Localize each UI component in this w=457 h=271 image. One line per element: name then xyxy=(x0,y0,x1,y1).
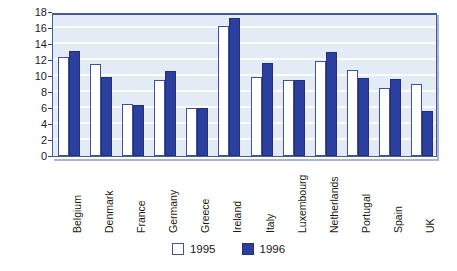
x-axis-label-denmark: Denmark xyxy=(104,190,115,233)
legend-item-1995: 1995 xyxy=(172,243,216,255)
bar-group xyxy=(117,15,149,156)
y-axis-tick-label: 0 xyxy=(27,151,47,162)
x-axis-label-portugal: Portugal xyxy=(361,194,372,233)
bar-1996 xyxy=(294,80,305,156)
y-axis-tick-label: 10 xyxy=(27,71,47,82)
bar-1995 xyxy=(90,64,101,156)
bar-group xyxy=(149,15,181,156)
y-axis-tick-label: 4 xyxy=(27,119,47,130)
bar-1995 xyxy=(347,70,358,156)
y-axis-tick-label: 6 xyxy=(27,103,47,114)
bar-1996 xyxy=(101,77,112,156)
legend-swatch-icon xyxy=(242,243,254,255)
x-axis-label-spain: Spain xyxy=(393,206,404,233)
bar-group xyxy=(310,15,342,156)
x-axis-category-labels: BelgiumDenmarkFranceGermanyGreeceIreland… xyxy=(52,161,437,236)
bar-group xyxy=(246,15,278,156)
x-axis-label-luxembourg: Luxembourg xyxy=(297,175,308,233)
y-axis-tick-label: 18 xyxy=(27,7,47,18)
y-axis-tick-label: 2 xyxy=(27,135,47,146)
bar-1995 xyxy=(154,80,165,156)
y-axis-tick-label: 12 xyxy=(27,55,47,66)
x-axis-label-ireland: Ireland xyxy=(232,201,243,233)
bar-group xyxy=(278,15,310,156)
legend-swatch-icon xyxy=(172,243,184,255)
bar-1996 xyxy=(229,18,240,156)
bar-group xyxy=(53,15,85,156)
legend-label: 1995 xyxy=(190,243,216,255)
y-axis-tick-label: 14 xyxy=(27,39,47,50)
bar-1995 xyxy=(411,84,422,156)
bar-1996 xyxy=(358,78,369,156)
x-axis-label-italy: Italy xyxy=(265,214,276,233)
bar-group xyxy=(374,15,406,156)
bar-1995 xyxy=(186,108,197,156)
x-axis-label-uk: UK xyxy=(425,218,436,233)
bar-1996 xyxy=(390,79,401,156)
bar-1995 xyxy=(283,80,294,156)
bar-1996 xyxy=(422,111,433,156)
y-axis-tick-label: 8 xyxy=(27,87,47,98)
bar-group xyxy=(342,15,374,156)
bar-1995 xyxy=(315,61,326,156)
x-axis-label-netherlands: Netherlands xyxy=(329,176,340,233)
bar-1995 xyxy=(251,77,262,156)
x-axis-label-france: France xyxy=(136,200,147,233)
bars-layer xyxy=(53,15,436,156)
chart-legend: 19951996 xyxy=(0,243,457,255)
bar-1995 xyxy=(58,57,69,156)
legend-item-1996: 1996 xyxy=(242,243,286,255)
y-axis-tick-labels: 181614121086420 xyxy=(27,13,47,157)
bar-1996 xyxy=(326,52,337,156)
x-axis-label-greece: Greece xyxy=(200,199,211,233)
bar-1996 xyxy=(69,51,80,156)
bar-1995 xyxy=(122,104,133,156)
bar-1996 xyxy=(262,63,273,156)
bar-1996 xyxy=(165,71,176,156)
bar-group xyxy=(213,15,245,156)
bar-chart: Us cents/litre 181614121086420 BelgiumDe… xyxy=(0,0,457,271)
legend-label: 1996 xyxy=(260,243,286,255)
plot-area xyxy=(52,13,437,157)
bar-group xyxy=(85,15,117,156)
bar-1995 xyxy=(379,88,390,156)
x-axis-label-germany: Germany xyxy=(168,190,179,233)
bar-group xyxy=(181,15,213,156)
bar-1996 xyxy=(197,108,208,156)
bar-1995 xyxy=(218,26,229,156)
x-axis-label-belgium: Belgium xyxy=(72,195,83,233)
bar-group xyxy=(406,15,438,156)
y-axis-tick-label: 16 xyxy=(27,23,47,34)
bar-1996 xyxy=(133,105,144,156)
